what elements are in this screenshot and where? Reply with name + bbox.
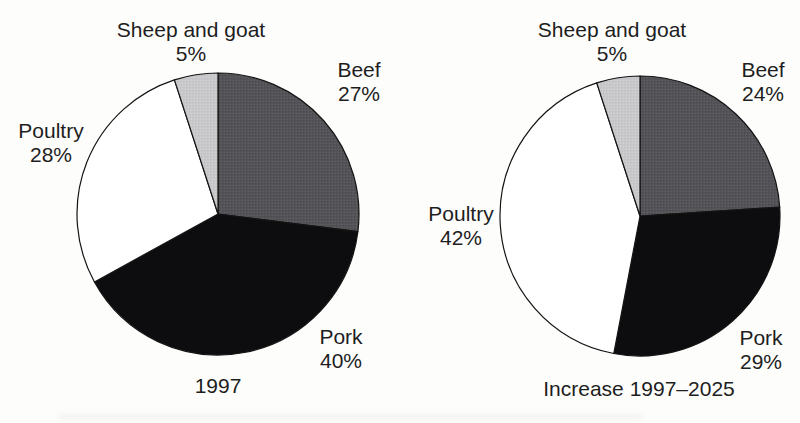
label-0-beef: Beef27%: [337, 58, 380, 106]
slice-name: Beef: [741, 58, 784, 82]
label-1-poultry: Poultry42%: [428, 202, 493, 250]
figure-meat-consumption-pies: Beef27%Pork40%Poultry28%Sheep and goat5%…: [0, 0, 800, 423]
slice-value: 28%: [18, 143, 83, 167]
slice-value: 5%: [538, 42, 686, 66]
label-0-poultry: Poultry28%: [18, 119, 83, 167]
slice-name: Pork: [319, 325, 362, 349]
slice-value: 40%: [319, 349, 362, 373]
slice-value: 42%: [428, 226, 493, 250]
caption-increase-1997-2025: Increase 1997–2025: [543, 377, 735, 401]
label-1-pork: Pork29%: [739, 326, 782, 374]
label-1-sheep-and-goat: Sheep and goat5%: [538, 18, 686, 66]
label-0-pork: Pork40%: [319, 325, 362, 373]
slice-name: Poultry: [428, 202, 493, 226]
slice-value: 5%: [117, 42, 265, 66]
slice-name: Pork: [739, 326, 782, 350]
label-0-sheep-and-goat: Sheep and goat5%: [117, 18, 265, 66]
slice-name: Beef: [337, 58, 380, 82]
scan-artifact: [58, 414, 643, 419]
caption-1997: 1997: [195, 374, 242, 398]
slice-name: Sheep and goat: [117, 18, 265, 42]
slice-value: 27%: [337, 82, 380, 106]
slice-value: 24%: [741, 82, 784, 106]
slice-name: Poultry: [18, 119, 83, 143]
label-1-beef: Beef24%: [741, 58, 784, 106]
slice-value: 29%: [739, 350, 782, 374]
slice-name: Sheep and goat: [538, 18, 686, 42]
